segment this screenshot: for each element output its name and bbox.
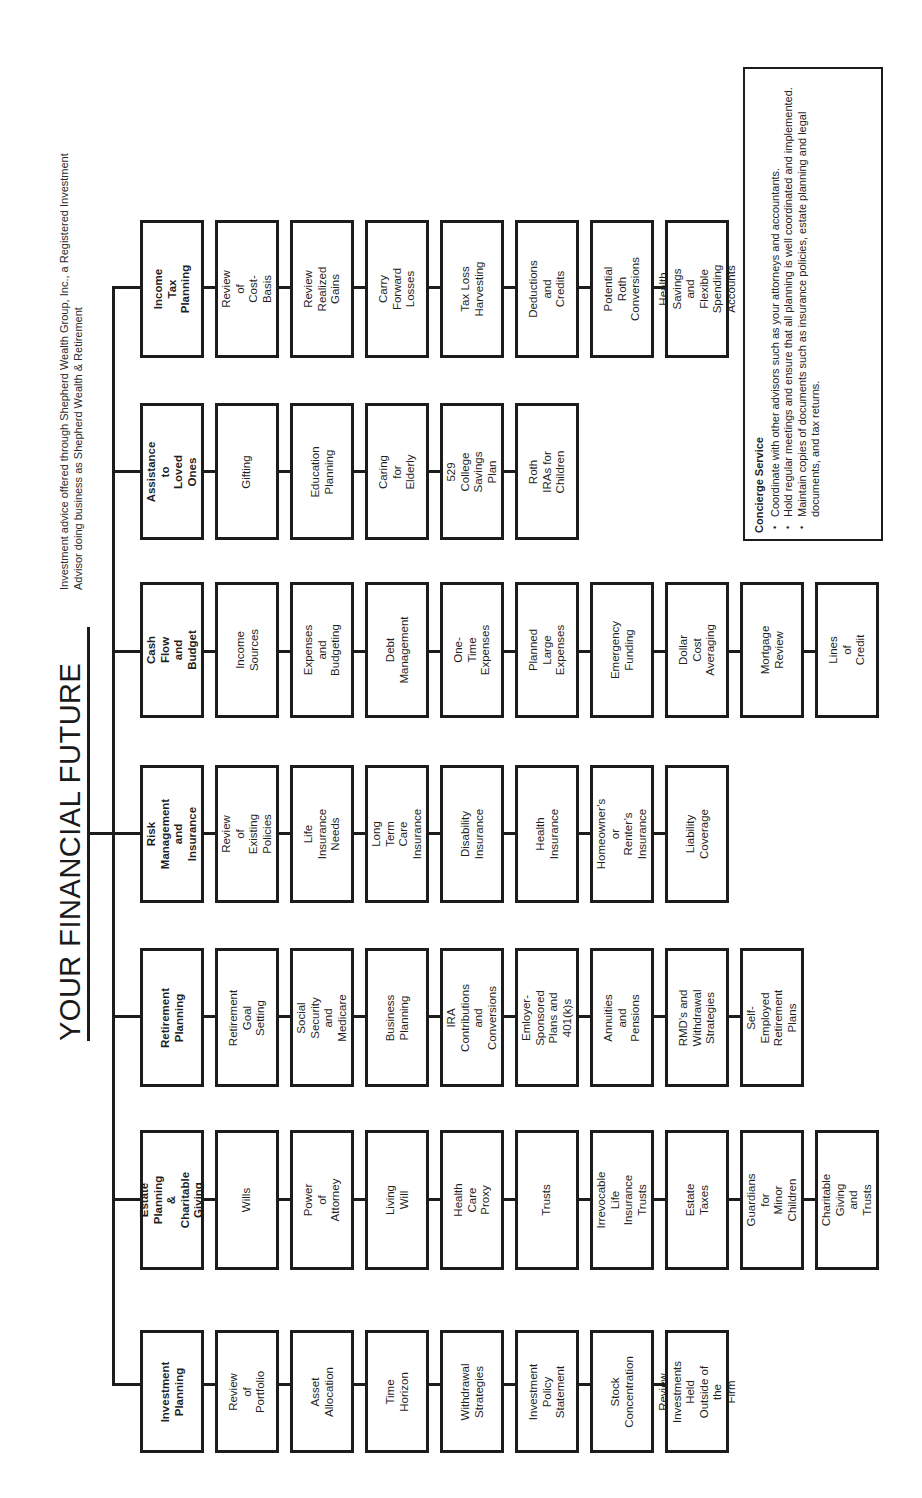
group-item-label: Power of Attorney (302, 1179, 343, 1222)
concierge-title: Concierge Service (753, 79, 767, 533)
financial-future-diagram: YOUR FINANCIAL FUTURE Investment advice … (0, 0, 922, 1498)
group-item-box: Gifting (215, 403, 279, 540)
group-item-box: Emergency Funding (590, 582, 654, 718)
disclaimer-text: Investment advice offered through Shephe… (58, 153, 85, 590)
branch-connector (112, 1383, 142, 1386)
group-item-label: Investment Policy Statement (527, 1363, 568, 1419)
concierge-service-box: Concierge Service Coordinate with other … (743, 67, 883, 541)
group-head-label: Cash Flow and Budget (145, 630, 199, 670)
group-item-box: Dollar Cost Averaging (665, 582, 729, 718)
group-item-box: Wills (215, 1130, 279, 1270)
group-head-label: Investment Planning (159, 1361, 186, 1422)
branch-connector (112, 470, 142, 473)
group-head-box: Retirement Planning (140, 948, 204, 1087)
group-item-box: Potential Roth Conversions (590, 220, 654, 358)
group-item-box: 529 College Savings Plan (440, 403, 504, 540)
group-item-label: Annuities and Pensions (602, 994, 643, 1041)
group-item-box: Health Insurance (515, 765, 579, 903)
group-item-box: Life Insurance Needs (290, 765, 354, 903)
group-item-label: Emergency Funding (609, 621, 636, 679)
group-item-box: Tax Loss Harvesting (440, 220, 504, 358)
group-item-label: Deductions and Credits (527, 260, 568, 318)
group-item-label: Health Care Proxy (452, 1183, 493, 1216)
group-item-box: Review of Portfolio (215, 1330, 279, 1453)
group-head-box: Risk Management and Insurance (140, 765, 204, 903)
group-item-label: Business Planning (384, 994, 411, 1041)
group-item-box: Asset Allocation (290, 1330, 354, 1453)
group-item-label: Planned Large Expenses (527, 625, 568, 676)
group-item-box: Review of Existing Policies (215, 765, 279, 903)
group-item-box: Charitable Giving and Trusts (815, 1130, 879, 1270)
group-item-label: Stock Concentration (609, 1356, 636, 1428)
group-item-label: Charitable Giving and Trusts (820, 1174, 874, 1226)
group-item-label: Withdrawal Strategies (459, 1363, 486, 1420)
group-item-label: One-Time Expenses (452, 625, 493, 676)
group-head-label: Risk Management and Insurance (145, 799, 199, 869)
group-item-label: Time Horizon (384, 1372, 411, 1412)
group-item-box: Mortgage Review (740, 582, 804, 718)
group-item-label: Review of Existing Policies (220, 814, 274, 854)
group-item-label: RMD’s and Withdrawal Strategies (677, 989, 718, 1046)
group-item-label: Social Security and Medicare (295, 994, 349, 1041)
group-item-label: Homeowner’s or Renter’s Insurance (595, 799, 649, 870)
group-item-box: Annuities and Pensions (590, 948, 654, 1087)
group-item-box: One-Time Expenses (440, 582, 504, 718)
group-item-box: Withdrawal Strategies (440, 1330, 504, 1453)
group-item-box: Social Security and Medicare (290, 948, 354, 1087)
group-item-label: Wills (240, 1188, 254, 1212)
group-item-box: Stock Concentration (590, 1330, 654, 1453)
group-item-label: Caring for Elderly (377, 454, 418, 489)
group-head-label: Retirement Planning (159, 987, 186, 1047)
group-item-box: Self-Employed Retirement Plans (740, 948, 804, 1087)
group-item-label: Review Investments Held Outside of the F… (657, 1361, 738, 1423)
group-item-label: Lines of Credit (827, 635, 868, 666)
group-item-label: Roth IRAs for Children (527, 450, 568, 493)
group-item-box: Living Will (365, 1130, 429, 1270)
group-item-box: Liability Coverage (665, 765, 729, 903)
group-item-box: Business Planning (365, 948, 429, 1087)
concierge-list: Coordinate with other advisors such as y… (769, 79, 823, 533)
group-item-box: Deductions and Credits (515, 220, 579, 358)
group-item-label: Dollar Cost Averaging (677, 624, 718, 676)
group-item-box: Caring for Elderly (365, 403, 429, 540)
group-head-box: Cash Flow and Budget (140, 582, 204, 718)
group-item-label: IRA Contributions and Conversions (445, 984, 499, 1052)
group-item-label: Health Insurance (534, 809, 561, 860)
group-item-box: Health Savings and Flexible Spending Acc… (665, 220, 729, 358)
group-item-box: Disability Insurance (440, 765, 504, 903)
group-item-box: Investment Policy Statement (515, 1330, 579, 1453)
group-item-box: Planned Large Expenses (515, 582, 579, 718)
group-item-box: RMD’s and Withdrawal Strategies (665, 948, 729, 1087)
group-item-label: Review Realized Gains (302, 267, 343, 312)
group-item-label: Potential Roth Conversions (602, 257, 643, 321)
group-item-box: Guardians for Minor Children (740, 1130, 804, 1270)
group-item-box: Income Sources (215, 582, 279, 718)
group-item-label: Income Sources (234, 629, 261, 671)
group-item-label: Disability Insurance (459, 809, 486, 860)
group-item-label: Asset Allocation (309, 1367, 336, 1417)
branch-connector (112, 832, 142, 835)
group-head-box: Estate Planning & Charitable Giving (140, 1130, 204, 1270)
group-item-box: Time Horizon (365, 1330, 429, 1453)
group-item-label: Emloyer-Sponsored Plans and 401(k)s (520, 990, 574, 1046)
group-head-box: Assistance to Loved Ones (140, 403, 204, 540)
branch-connector (112, 1015, 142, 1018)
group-item-box: Homeowner’s or Renter’s Insurance (590, 765, 654, 903)
group-item-box: Review of Cost-Basis (215, 220, 279, 358)
group-item-label: Liability Coverage (684, 809, 711, 859)
group-item-box: Expenses and Budgeting (290, 582, 354, 718)
branch-connector (112, 286, 142, 289)
group-head-box: Investment Planning (140, 1330, 204, 1453)
group-item-box: Debt Management (365, 582, 429, 718)
group-item-box: Roth IRAs for Children (515, 403, 579, 540)
group-item-box: Emloyer-Sponsored Plans and 401(k)s (515, 948, 579, 1087)
group-item-label: 529 College Savings Plan (445, 451, 499, 492)
group-item-label: Carry Forward Losses (377, 268, 418, 310)
group-item-label: Expenses and Budgeting (302, 624, 343, 676)
group-head-box: Income Tax Planning (140, 220, 204, 358)
group-item-label: Self-Employed Retirement Plans (745, 989, 799, 1045)
group-item-box: Retirement Goal Setting (215, 948, 279, 1087)
group-item-label: Estate Taxes (684, 1184, 711, 1217)
concierge-item: Hold regular meetings and ensure that al… (782, 79, 796, 523)
group-item-label: Education Planning (309, 446, 336, 497)
